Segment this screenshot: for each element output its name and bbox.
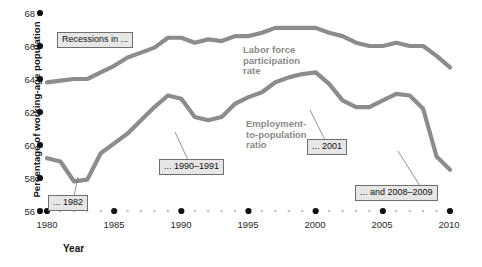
x-minor-dot-1994: [234, 210, 236, 212]
x-minor-dot-1993: [220, 210, 222, 212]
callout-1990-1991: ... 1990–1991: [159, 159, 224, 175]
x-minor-dot-2003: [355, 210, 357, 212]
x-minor-dot-1996: [261, 210, 263, 212]
x-axis-major-ticks: [44, 208, 453, 214]
callout-1982: ... 1982: [48, 195, 88, 211]
x-minor-dot-1986: [126, 210, 128, 212]
x-tick-label-2000: 2000: [298, 219, 332, 230]
x-minor-dot-1988: [153, 210, 155, 212]
x-minor-dot-1992: [207, 210, 209, 212]
x-minor-dot-1997: [274, 210, 276, 212]
x-tick-label-1985: 1985: [97, 219, 131, 230]
x-tick-dot-1995: [245, 208, 251, 214]
series-label-labor-force-participation-rate: Labor force participation rate: [243, 45, 300, 77]
x-minor-dot-1984: [100, 210, 102, 212]
x-axis-title: Year: [63, 243, 84, 254]
y-tick-label-66: 66: [13, 41, 35, 52]
series-label-employment-to-population-ratio: Employment- to-population ratio: [246, 119, 307, 151]
y-tick-label-60: 60: [13, 140, 35, 151]
y-tick-label-58: 58: [13, 173, 35, 184]
x-tick-label-1995: 1995: [231, 219, 265, 230]
x-tick-label-2005: 2005: [365, 219, 399, 230]
x-tick-dot-2000: [313, 208, 319, 214]
x-tick-dot-1990: [178, 208, 184, 214]
x-minor-dot-2001: [328, 210, 330, 212]
x-minor-dot-2009: [435, 210, 437, 212]
x-tick-label-1980: 1980: [30, 219, 64, 230]
x-minor-dot-2008: [422, 210, 424, 212]
x-tick-dot-1985: [111, 208, 117, 214]
x-tick-label-2010: 2010: [432, 219, 466, 230]
chart-container: Percentage of working-age population Yea…: [0, 0, 482, 267]
x-minor-dot-2002: [341, 210, 343, 212]
y-tick-label-64: 64: [13, 74, 35, 85]
y-tick-label-62: 62: [13, 107, 35, 118]
x-minor-dot-1989: [167, 210, 169, 212]
x-minor-dot-1991: [194, 210, 196, 212]
x-minor-dot-2004: [368, 210, 370, 212]
x-tick-dot-2010: [447, 208, 453, 214]
y-tick-label-68: 68: [13, 8, 35, 19]
x-tick-label-1990: 1990: [164, 219, 198, 230]
callout-recessions: Recessions in ...: [57, 32, 133, 48]
x-minor-dot-2007: [409, 210, 411, 212]
x-minor-dot-1998: [288, 210, 290, 212]
callout-2008-2009: ... and 2008–2009: [355, 185, 438, 201]
x-minor-dot-2006: [395, 210, 397, 212]
x-minor-dot-1999: [301, 210, 303, 212]
y-tick-label-56: 56: [13, 206, 35, 217]
x-minor-dot-1987: [140, 210, 142, 212]
x-tick-dot-2005: [380, 208, 386, 214]
callout-2001: ... 2001: [307, 139, 347, 155]
